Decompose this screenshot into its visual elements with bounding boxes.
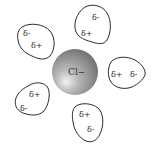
partial-charge-positive: δ+ <box>111 70 123 79</box>
partial-charge-positive: δ+ <box>81 29 93 38</box>
partial-charge-negative: δ- <box>92 13 100 22</box>
partial-charge-negative: δ- <box>23 29 31 38</box>
hydration-diagram: δ- δ+ δ- δ+ δ+ δ- δ+ δ- δ+ δ- Cl− <box>0 0 154 149</box>
partial-charge-negative: δ- <box>87 125 95 134</box>
ion-label: Cl− <box>68 67 85 77</box>
partial-charge-negative: δ- <box>130 70 138 79</box>
water-molecule-top-left: δ- δ+ <box>18 24 54 59</box>
water-molecule-bottom: δ+ δ- <box>72 104 102 142</box>
partial-charge-positive: δ+ <box>29 90 41 99</box>
water-molecule-right: δ+ δ- <box>108 57 145 88</box>
partial-charge-positive: δ+ <box>31 41 43 50</box>
chloride-ion: Cl− <box>52 49 98 95</box>
water-molecule-bottom-left: δ+ δ- <box>15 83 49 115</box>
water-molecule-top: δ- δ+ <box>75 5 111 43</box>
partial-charge-positive: δ+ <box>79 110 91 119</box>
partial-charge-negative: δ- <box>20 104 28 113</box>
